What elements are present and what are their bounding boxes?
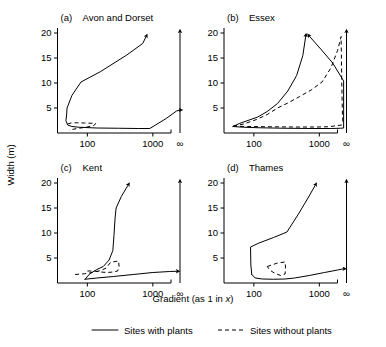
panel-b-ytick-label-10: 10	[207, 77, 218, 88]
panel-b-xtick-label-100: 100	[246, 138, 262, 149]
panel-b-axis-frame	[224, 28, 338, 133]
panel-a-ytick-label-5: 5	[46, 102, 51, 113]
panel-a: (a)Avon and Dorset51015201001000∞	[41, 12, 184, 149]
multi-panel-line-chart: (a)Avon and Dorset51015201001000∞(b)Esse…	[0, 0, 386, 347]
legend: Sites with plantsSites without plants	[92, 325, 332, 336]
panel-c-ytick-label-15: 15	[41, 202, 52, 213]
legend-label-without-plants: Sites without plants	[250, 325, 332, 336]
panel-b-series-3-dashed	[233, 37, 343, 127]
figure-panel-grid: (a)Avon and Dorset51015201001000∞(b)Esse…	[0, 0, 386, 347]
panel-a-ytick-label-20: 20	[41, 27, 52, 38]
panel-a-label: (a)	[61, 12, 73, 23]
legend-label-with-plants: Sites with plants	[124, 325, 193, 336]
panel-a-xtick-label-inf: ∞	[177, 138, 184, 149]
panel-a-title: Avon and Dorset	[83, 12, 154, 23]
panel-d-xtick-label-100: 100	[246, 288, 262, 299]
panel-b-series-0-solid	[233, 36, 344, 129]
panel-b-xtick-label-1000: 1000	[309, 138, 330, 149]
panel-c-series-2-dashed	[75, 261, 119, 275]
panel-c-label: (c)	[61, 162, 72, 173]
panel-d-xtick-label-1000: 1000	[309, 288, 330, 299]
panel-d-series-2-dashed	[267, 262, 285, 276]
panel-d-ytick-label-15: 15	[207, 202, 218, 213]
panel-b-ytick-label-15: 15	[207, 52, 218, 63]
panel-a-ytick-label-15: 15	[41, 52, 52, 63]
panel-a-series-0-solid	[66, 110, 180, 129]
panel-c-series-1-solid	[85, 185, 128, 279]
panel-c-title: Kent	[83, 162, 103, 173]
panel-d-series-0-solid	[252, 269, 344, 280]
panel-b-label: (b)	[227, 12, 239, 23]
x-axis-title: Gradient (as 1 in x)	[153, 293, 234, 304]
panel-c-ytick-label-10: 10	[41, 227, 52, 238]
panel-b: (b)Essex51015201001000∞	[207, 12, 350, 149]
panel-c-series-0-solid	[85, 271, 177, 279]
panel-d-ytick-label-20: 20	[207, 177, 218, 188]
panel-b-xtick-label-inf: ∞	[343, 138, 350, 149]
panel-d-ytick-label-10: 10	[207, 227, 218, 238]
panel-d-label: (d)	[227, 162, 239, 173]
panel-c: (c)Kent51015201001000∞	[41, 162, 184, 299]
panel-a-axis-frame	[58, 28, 172, 133]
panel-c-xtick-label-100: 100	[79, 288, 95, 299]
panel-d-axis-frame	[224, 178, 338, 283]
panel-d-series-1-solid	[251, 185, 316, 275]
panel-d: (d)Thames51015201001000∞	[207, 162, 350, 299]
panel-a-ytick-label-10: 10	[41, 77, 52, 88]
panel-a-series-1-solid	[66, 37, 146, 117]
panel-a-xtick-label-1000: 1000	[142, 138, 163, 149]
panel-b-ytick-label-5: 5	[213, 102, 218, 113]
panel-c-ytick-label-5: 5	[46, 252, 51, 263]
panel-c-ytick-label-20: 20	[41, 177, 52, 188]
panel-b-title: Essex	[249, 12, 275, 23]
panel-b-series-1-solid	[233, 36, 306, 127]
panel-d-xtick-label-inf: ∞	[343, 288, 350, 299]
x-axis-title-end: )	[230, 293, 233, 304]
y-axis-title: Width (m)	[5, 144, 16, 185]
panel-b-ytick-label-20: 20	[207, 27, 218, 38]
x-axis-title-main: Gradient (as 1 in	[153, 293, 226, 304]
panel-d-title: Thames	[249, 162, 284, 173]
panel-a-xtick-label-100: 100	[79, 138, 95, 149]
panel-b-series-2-dashed	[233, 125, 344, 127]
panel-d-ytick-label-5: 5	[213, 252, 218, 263]
